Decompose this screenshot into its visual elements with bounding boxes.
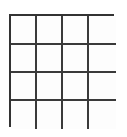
grid-cell bbox=[11, 45, 37, 73]
grid-cell bbox=[37, 16, 63, 45]
grid-cell bbox=[63, 45, 89, 73]
grid-figure bbox=[9, 14, 114, 127]
grid-cell bbox=[89, 16, 116, 45]
grid-cell bbox=[63, 101, 89, 129]
figure-canvas bbox=[0, 0, 127, 137]
grid-cell bbox=[89, 73, 116, 101]
grid-cell bbox=[89, 45, 116, 73]
grid-cell bbox=[37, 73, 63, 101]
grid-cell bbox=[37, 45, 63, 73]
grid-cell bbox=[11, 101, 37, 129]
grid-cell bbox=[63, 73, 89, 101]
grid-cell bbox=[11, 73, 37, 101]
grid-cell bbox=[11, 16, 37, 45]
grid-cell bbox=[89, 101, 116, 129]
grid-cell bbox=[63, 16, 89, 45]
grid-cell bbox=[37, 101, 63, 129]
